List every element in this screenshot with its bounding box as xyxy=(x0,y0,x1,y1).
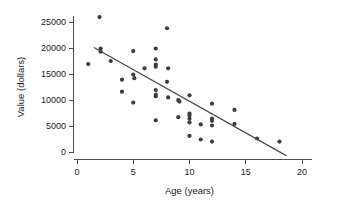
data-point xyxy=(176,115,180,119)
y-tick-label: 5000 xyxy=(46,121,66,131)
y-tick-label: 25000 xyxy=(41,17,66,27)
data-point xyxy=(154,65,158,69)
data-point xyxy=(131,49,135,53)
data-point xyxy=(154,88,158,92)
x-tick-label: 15 xyxy=(241,167,251,177)
data-point xyxy=(187,93,191,97)
y-axis: 0500010000150002000025000 xyxy=(41,16,74,157)
data-points-group xyxy=(86,15,281,144)
data-point xyxy=(165,26,169,30)
data-point xyxy=(154,57,158,61)
data-point xyxy=(166,66,170,70)
data-point xyxy=(120,90,124,94)
data-point xyxy=(166,95,170,99)
data-point xyxy=(199,122,203,126)
data-point xyxy=(154,118,158,122)
x-tick-label: 0 xyxy=(74,167,79,177)
y-axis-title: Value (dollars) xyxy=(15,57,26,118)
data-point xyxy=(165,80,169,84)
data-point xyxy=(120,78,124,82)
data-point xyxy=(131,101,135,105)
data-point xyxy=(86,62,90,66)
x-tick-label: 10 xyxy=(184,167,194,177)
y-tick-label: 15000 xyxy=(41,69,66,79)
x-tick-label: 20 xyxy=(297,167,307,177)
data-point xyxy=(109,59,113,63)
data-point xyxy=(154,46,158,50)
data-point xyxy=(154,94,158,98)
data-point xyxy=(187,134,191,138)
regression-line xyxy=(94,47,286,155)
scatter-plot-svg: 0500010000150002000025000 05101520 Age (… xyxy=(0,0,340,206)
x-axis: 05101520 xyxy=(74,159,313,177)
data-point xyxy=(177,99,181,103)
data-point xyxy=(132,76,136,80)
data-point xyxy=(232,108,236,112)
trend-line-group xyxy=(94,47,286,155)
y-tick-label: 10000 xyxy=(41,95,66,105)
x-tick-label: 5 xyxy=(131,167,136,177)
scatter-plot-figure: 0500010000150002000025000 05101520 Age (… xyxy=(0,0,340,206)
x-axis-title: Age (years) xyxy=(165,185,214,196)
data-point xyxy=(199,137,203,141)
data-point xyxy=(142,66,146,70)
data-point xyxy=(210,123,214,127)
data-point xyxy=(97,15,101,19)
data-point xyxy=(277,140,281,144)
data-point xyxy=(187,120,191,124)
data-point xyxy=(210,119,214,123)
data-point xyxy=(210,140,214,144)
data-point xyxy=(131,72,135,76)
y-tick-label: 0 xyxy=(61,147,66,157)
data-point xyxy=(210,102,214,106)
y-tick-label: 20000 xyxy=(41,43,66,53)
data-point xyxy=(187,117,191,121)
